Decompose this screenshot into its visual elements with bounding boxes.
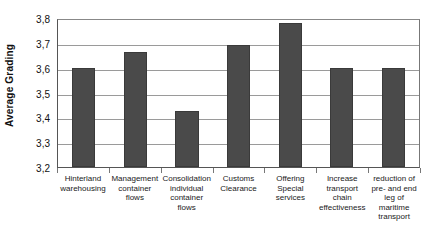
bar bbox=[175, 111, 198, 167]
y-axis-title-label: Average Grading bbox=[5, 43, 16, 126]
y-tick-label: 3,7 bbox=[36, 38, 50, 49]
x-axis-label: Hinterland warehousing bbox=[57, 174, 109, 235]
bar bbox=[330, 68, 353, 167]
y-axis-title: Average Grading bbox=[0, 0, 20, 170]
x-axis-tick bbox=[264, 168, 265, 173]
bar-slot bbox=[110, 20, 162, 167]
x-axis-tick bbox=[57, 168, 58, 173]
bar bbox=[72, 68, 95, 167]
y-tick-label: 3,6 bbox=[36, 63, 50, 74]
x-axis-tick bbox=[368, 168, 369, 173]
y-tick-label: 3,4 bbox=[36, 113, 50, 124]
y-tick-label: 3,5 bbox=[36, 88, 50, 99]
bar bbox=[279, 23, 302, 167]
bar-slot bbox=[367, 20, 419, 167]
x-axis-label: Consolidation individual container flows bbox=[161, 174, 213, 235]
x-axis-tick bbox=[161, 168, 162, 173]
x-axis-labels: Hinterland warehousing Management contai… bbox=[57, 174, 420, 235]
bars-container bbox=[58, 20, 419, 167]
bar-slot bbox=[161, 20, 213, 167]
y-axis-tick-labels: 3,8 3,7 3,6 3,5 3,4 3,3 3,2 bbox=[20, 19, 54, 168]
bar bbox=[124, 52, 147, 167]
bar-slot bbox=[213, 20, 265, 167]
bar-slot bbox=[264, 20, 316, 167]
bar bbox=[382, 68, 405, 167]
x-axis-tick bbox=[109, 168, 110, 173]
y-tick-label: 3,3 bbox=[36, 138, 50, 149]
x-axis-label: Customs Clearance bbox=[213, 174, 265, 235]
bar-slot bbox=[316, 20, 368, 167]
y-tick-label: 3,2 bbox=[36, 163, 50, 174]
y-tick-label: 3,8 bbox=[36, 14, 50, 25]
x-axis-tick bbox=[316, 168, 317, 173]
x-axis-tick bbox=[213, 168, 214, 173]
bar bbox=[227, 45, 250, 167]
x-axis-tick bbox=[420, 168, 421, 173]
bar-chart: Average Grading 3,8 3,7 3,6 3,5 3,4 3,3 … bbox=[0, 0, 434, 235]
x-axis-label: reduction of pre- and end leg of maritim… bbox=[368, 174, 420, 235]
x-axis-label: Management container flows bbox=[109, 174, 161, 235]
x-axis-ticks bbox=[57, 168, 420, 173]
x-axis-label: Offering Special services bbox=[264, 174, 316, 235]
plot-area bbox=[57, 19, 420, 168]
x-axis-label: Increase transport chain effectiveness bbox=[316, 174, 368, 235]
bar-slot bbox=[58, 20, 110, 167]
